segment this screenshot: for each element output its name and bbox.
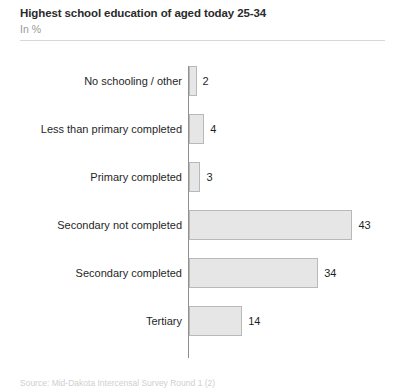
bar-value-label: 3 — [206, 162, 212, 192]
bar-category-label: Less than primary completed — [41, 114, 182, 144]
bar-category-label: Primary completed — [90, 162, 182, 192]
bar-value-label: 34 — [324, 258, 336, 288]
bar-category-label: No schooling / other — [84, 66, 182, 96]
bar — [189, 258, 318, 288]
chart-header: Highest school education of aged today 2… — [20, 6, 385, 36]
bar — [189, 66, 197, 96]
source-footnote: Source: Mid-Dakota Intercensal Survey Ro… — [20, 378, 400, 388]
bar-row: No schooling / other2 — [0, 66, 405, 114]
bar-row: Secondary completed34 — [0, 258, 405, 306]
bar-value-label: 4 — [210, 114, 216, 144]
bar-category-label: Secondary not completed — [57, 210, 182, 240]
plot-area: No schooling / other2Less than primary c… — [0, 46, 405, 364]
bar-value-label: 43 — [358, 210, 370, 240]
bar-value-label: 2 — [203, 66, 209, 96]
bar-row: Secondary not completed43 — [0, 210, 405, 258]
chart-subtitle: In % — [20, 22, 385, 36]
bar — [189, 114, 204, 144]
bar — [189, 210, 352, 240]
bar-category-label: Secondary completed — [76, 258, 182, 288]
header-divider — [20, 40, 385, 41]
page-title: Highest school education of aged today 2… — [20, 6, 385, 21]
bar — [189, 306, 242, 336]
bar-value-label: 14 — [248, 306, 260, 336]
bar-category-label: Tertiary — [146, 306, 182, 336]
bar — [189, 162, 200, 192]
chart-figure: Highest school education of aged today 2… — [0, 0, 405, 388]
bar-row: Primary completed3 — [0, 162, 405, 210]
bar-row-list: No schooling / other2Less than primary c… — [0, 66, 405, 354]
bar-row: Tertiary14 — [0, 306, 405, 354]
bar-row: Less than primary completed4 — [0, 114, 405, 162]
